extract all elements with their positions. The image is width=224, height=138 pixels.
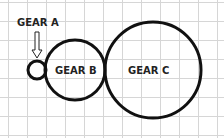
gear-diagram: GEAR A GEAR B GEAR C	[0, 0, 224, 138]
gear-a-label: GEAR A	[17, 17, 59, 28]
down-arrow-icon	[32, 32, 42, 58]
gear-b-label: GEAR B	[55, 65, 97, 76]
diagram-canvas: GEAR A GEAR B GEAR C	[0, 0, 224, 138]
gear-c-label: GEAR C	[128, 65, 169, 76]
gear-a-circle	[28, 61, 46, 79]
